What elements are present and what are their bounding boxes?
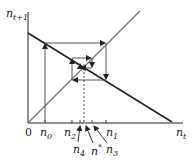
origin-label: 0 <box>25 127 32 138</box>
label-pointers <box>78 126 107 143</box>
tick-label-nstar: n* <box>91 144 102 157</box>
y-axis-label: nt+1 <box>6 8 28 22</box>
tick-label-n4: n4 <box>73 144 85 158</box>
cobweb-path <box>45 43 106 123</box>
tick-label-n3: n3 <box>106 144 118 158</box>
tick-label-n0: n0 <box>40 127 52 141</box>
tick-label-n1: n1 <box>106 127 118 141</box>
tick-label-n2: n2 <box>64 127 76 141</box>
map-line <box>28 33 172 122</box>
x-axis-label: nt <box>176 127 186 141</box>
cobweb-diagram <box>0 0 195 165</box>
